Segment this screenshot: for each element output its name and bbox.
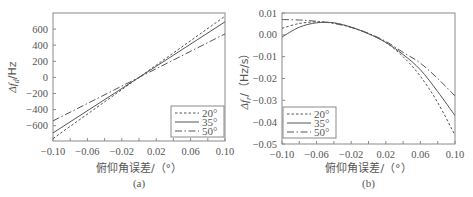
legend: 20°35°50°: [171, 106, 224, 137]
y-axis-title: Δfd/Hz: [6, 61, 21, 93]
y-tick-label: 600: [32, 24, 48, 35]
series-line-50deg: [282, 20, 455, 96]
y-tick-label: −0.01: [253, 51, 277, 62]
chart-panel-a: −0.10−0.06−0.020.020.060.106004002000−20…: [6, 13, 234, 190]
x-tick-label: 0.06: [411, 149, 429, 160]
x-axis-title: 俯仰角误差/（°）: [96, 161, 182, 175]
x-tick-label: 0.06: [181, 146, 199, 157]
x-tick-label: 0.10: [216, 146, 234, 157]
x-tick-label: −0.02: [110, 146, 134, 157]
y-tick-label: −0.04: [253, 117, 278, 128]
y-tick-label: −0.03: [253, 95, 277, 106]
y-tick-label: 0.01: [259, 8, 277, 19]
x-tick-label: 0.02: [147, 146, 165, 157]
x-tick-label: −0.02: [339, 149, 363, 160]
y-tick-label: −600: [26, 120, 48, 131]
legend-label: 50°: [314, 126, 329, 138]
y-tick-label: 0.00: [259, 29, 277, 40]
series-line-35deg: [282, 22, 455, 115]
x-tick-label: −0.06: [304, 149, 328, 160]
y-tick-label: −0.02: [253, 73, 277, 84]
panel-caption: (a): [133, 177, 146, 190]
y-tick-label: 0: [43, 72, 48, 83]
chart-panel-b: −0.10−0.06−0.020.020.060.100.010.00−0.01…: [238, 8, 464, 191]
y-tick-label: −0.05: [253, 139, 277, 150]
x-tick-label: 0.10: [446, 149, 464, 160]
panel-caption: (b): [362, 177, 375, 190]
legend: 20°35°50°: [283, 107, 336, 138]
legend-label: 50°: [202, 125, 217, 137]
x-tick-label: 0.02: [377, 149, 395, 160]
y-tick-label: 200: [32, 56, 48, 67]
y-tick-label: 400: [32, 40, 48, 51]
y-tick-label: −400: [26, 104, 48, 115]
x-tick-label: −0.06: [75, 146, 99, 157]
x-axis-title: 俯仰角误差/（°）: [325, 161, 411, 175]
figure: −0.10−0.06−0.020.020.060.106004002000−20…: [0, 0, 473, 197]
y-tick-label: −200: [26, 88, 48, 99]
x-tick-label: −0.10: [41, 146, 65, 157]
x-tick-label: −0.10: [270, 149, 294, 160]
y-axis-title: Δfr/（Hz/s）: [238, 48, 253, 111]
